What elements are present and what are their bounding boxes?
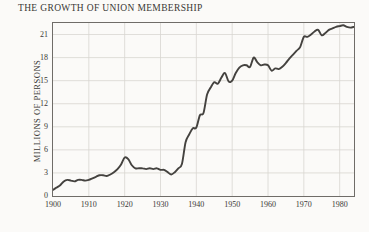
y-tick-label: 0 bbox=[32, 192, 48, 200]
x-tick-label: 1940 bbox=[176, 200, 216, 209]
page-title: THE GROWTH OF UNION MEMBERSHIP bbox=[18, 3, 203, 13]
x-axis-tick-labels: 190019101920193019401950196019701980 bbox=[52, 200, 355, 214]
y-axis-tick-labels: 036912151821 bbox=[30, 22, 48, 197]
y-tick-label: 18 bbox=[32, 54, 48, 62]
x-tick-label: 1970 bbox=[284, 200, 324, 209]
x-tick-label: 1980 bbox=[320, 200, 360, 209]
y-tick-label: 15 bbox=[32, 77, 48, 85]
x-tick-label: 1930 bbox=[141, 200, 181, 209]
data-series-line bbox=[53, 25, 354, 190]
chart-figure: THE GROWTH OF UNION MEMBERSHIP MILLIONS … bbox=[0, 0, 369, 232]
x-tick-label: 1960 bbox=[248, 200, 288, 209]
y-tick-label: 9 bbox=[32, 123, 48, 131]
y-tick-label: 21 bbox=[32, 31, 48, 39]
line-chart-svg bbox=[53, 23, 354, 196]
y-tick-label: 3 bbox=[32, 169, 48, 177]
x-tick-label: 1950 bbox=[212, 200, 252, 209]
x-tick-label: 1910 bbox=[69, 200, 109, 209]
y-tick-label: 6 bbox=[32, 146, 48, 154]
plot-area bbox=[52, 22, 355, 197]
x-tick-label: 1920 bbox=[105, 200, 145, 209]
x-tick-label: 1900 bbox=[33, 200, 73, 209]
y-tick-label: 12 bbox=[32, 100, 48, 108]
